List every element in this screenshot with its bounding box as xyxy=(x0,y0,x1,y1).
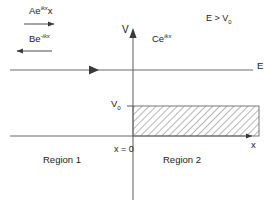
x-axis-label: x xyxy=(251,140,256,150)
origin-label: x = 0 xyxy=(114,145,134,154)
diagram-canvas xyxy=(0,0,269,210)
reflected-wave-label: Be-ikx xyxy=(29,34,50,44)
step-height-label: V0 xyxy=(111,99,121,109)
region-2-label: Region 2 xyxy=(163,155,201,165)
transmitted-wave-label: Ceikx xyxy=(152,34,171,44)
incident-wave-label: Aeikxx xyxy=(29,6,53,16)
hatched-barrier-region xyxy=(133,106,259,136)
v-axis-arrowhead xyxy=(129,28,136,38)
energy-level-label: E xyxy=(257,61,263,71)
v-axis-label: V xyxy=(122,25,129,35)
energy-line-propagation-arrowhead xyxy=(89,66,99,75)
energy-condition-label: E > V0 xyxy=(206,14,232,23)
region-1-label: Region 1 xyxy=(43,155,81,165)
step-potential-diagram: Aeikxx Be-ikx E > V0 V Ceikx E V0 x x = … xyxy=(0,0,269,210)
